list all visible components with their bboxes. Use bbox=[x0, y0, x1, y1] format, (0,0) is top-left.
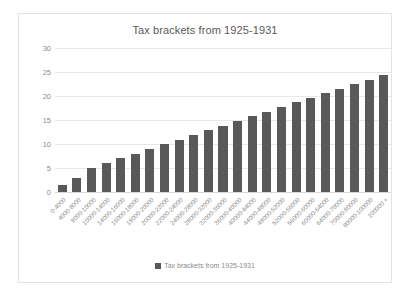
bar-slot bbox=[260, 48, 275, 192]
chart-title: Tax brackets from 1925-1931 bbox=[19, 24, 391, 36]
bar[interactable] bbox=[87, 168, 96, 192]
bar[interactable] bbox=[233, 121, 242, 192]
bar[interactable] bbox=[379, 75, 388, 192]
y-axis-tick-label: 20 bbox=[43, 92, 51, 101]
bar-slot bbox=[333, 48, 348, 192]
y-axis-tick-label: 5 bbox=[47, 164, 51, 173]
bar-slot bbox=[216, 48, 231, 192]
bar[interactable] bbox=[277, 107, 286, 192]
bar[interactable] bbox=[116, 158, 125, 192]
x-axis-line bbox=[55, 192, 391, 193]
x-label-slot: 4000-8000 bbox=[70, 194, 85, 256]
bar-slot bbox=[157, 48, 172, 192]
bar[interactable] bbox=[160, 144, 169, 192]
bar-slot bbox=[274, 48, 289, 192]
y-axis-tick-label: 25 bbox=[43, 68, 51, 77]
bar[interactable] bbox=[145, 149, 154, 192]
bar[interactable] bbox=[335, 89, 344, 192]
y-axis-tick-label: 30 bbox=[43, 44, 51, 53]
bar-slot bbox=[347, 48, 362, 192]
bar-slot bbox=[113, 48, 128, 192]
bar-slot bbox=[318, 48, 333, 192]
bar[interactable] bbox=[189, 135, 198, 192]
bar-slot bbox=[289, 48, 304, 192]
x-axis-labels: 0-40004000-80008000-1000010000-140001400… bbox=[55, 194, 391, 256]
bar-slot bbox=[55, 48, 70, 192]
legend-swatch-icon bbox=[155, 263, 161, 269]
bar-slot bbox=[230, 48, 245, 192]
bar[interactable] bbox=[72, 178, 81, 192]
bar[interactable] bbox=[306, 98, 315, 192]
bar-slot bbox=[99, 48, 114, 192]
bar-slot bbox=[186, 48, 201, 192]
y-axis-tick-label: 0 bbox=[47, 188, 51, 197]
bar-slot bbox=[362, 48, 377, 192]
bar[interactable] bbox=[248, 116, 257, 192]
bar[interactable] bbox=[131, 154, 140, 192]
bar[interactable] bbox=[262, 112, 271, 192]
bar[interactable] bbox=[321, 93, 330, 192]
bar-slot bbox=[84, 48, 99, 192]
bar-slot bbox=[201, 48, 216, 192]
x-label-slot: 80000-100000 bbox=[362, 194, 377, 256]
bar-slot bbox=[245, 48, 260, 192]
bar-slot bbox=[376, 48, 391, 192]
y-axis-tick-label: 15 bbox=[43, 116, 51, 125]
bar[interactable] bbox=[175, 140, 184, 192]
bar[interactable] bbox=[365, 80, 374, 192]
x-label-slot: 100000 + bbox=[376, 194, 391, 256]
legend-label: Tax brackets from 1925-1931 bbox=[164, 262, 255, 269]
x-label-slot: 0-4000 bbox=[55, 194, 70, 256]
bar[interactable] bbox=[102, 163, 111, 192]
bar-slot bbox=[303, 48, 318, 192]
chart-legend: Tax brackets from 1925-1931 bbox=[19, 262, 391, 269]
chart-container: Tax brackets from 1925-1931 051015202530… bbox=[18, 13, 392, 283]
bar[interactable] bbox=[204, 130, 213, 192]
y-axis-tick-label: 10 bbox=[43, 140, 51, 149]
bar[interactable] bbox=[58, 185, 67, 192]
bar-series bbox=[55, 48, 391, 192]
bar-slot bbox=[70, 48, 85, 192]
bar[interactable] bbox=[350, 84, 359, 192]
bar-slot bbox=[143, 48, 158, 192]
bar-slot bbox=[128, 48, 143, 192]
bar[interactable] bbox=[292, 102, 301, 192]
bar-slot bbox=[172, 48, 187, 192]
bar[interactable] bbox=[218, 126, 227, 192]
